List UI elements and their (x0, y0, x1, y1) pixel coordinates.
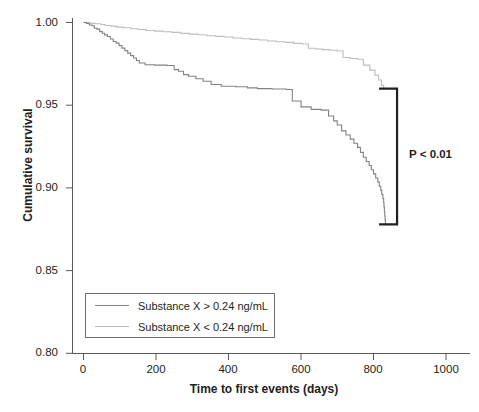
significance-bracket (379, 89, 397, 225)
x-tick-label-400: 400 (198, 363, 258, 375)
legend-label-low: Substance X < 0.24 ng/mL (138, 321, 268, 333)
legend-box: Substance X > 0.24 ng/mL Substance X < 0… (85, 293, 275, 338)
x-tick-label-800: 800 (343, 363, 403, 375)
legend-label-high: Substance X > 0.24 ng/mL (138, 300, 268, 312)
x-axis-ticks (84, 354, 447, 361)
x-tick-label-0: 0 (53, 363, 113, 375)
legend-line-swatch-high (95, 305, 129, 306)
y-tick-label-1-00: 1.00 (18, 16, 58, 28)
data-series-group (84, 23, 386, 225)
x-tick-label-200: 200 (126, 363, 186, 375)
x-axis-title: Time to first events (days) (83, 382, 445, 396)
x-tick-label-1000: 1000 (416, 363, 476, 375)
plot-canvas (0, 0, 479, 412)
y-axis-title: Cumulative survival (21, 85, 35, 245)
y-axis-ticks (66, 23, 73, 354)
y-tick-label-0-85: 0.85 (18, 264, 58, 276)
pvalue-annotation-label: P < 0.01 (409, 148, 452, 160)
series-line-substance-x-low (84, 23, 386, 89)
legend-line-swatch-low (95, 326, 129, 327)
series-line-substance-x-high (84, 23, 386, 225)
legend-entry-substance-x-low: Substance X < 0.24 ng/mL (86, 316, 274, 337)
x-tick-label-600: 600 (271, 363, 331, 375)
legend-entry-substance-x-high: Substance X > 0.24 ng/mL (86, 295, 274, 316)
y-tick-label-0-80: 0.80 (18, 346, 58, 358)
survival-chart-figure: 1.00 0.95 0.90 0.85 0.80 0 200 400 600 8… (0, 0, 479, 412)
